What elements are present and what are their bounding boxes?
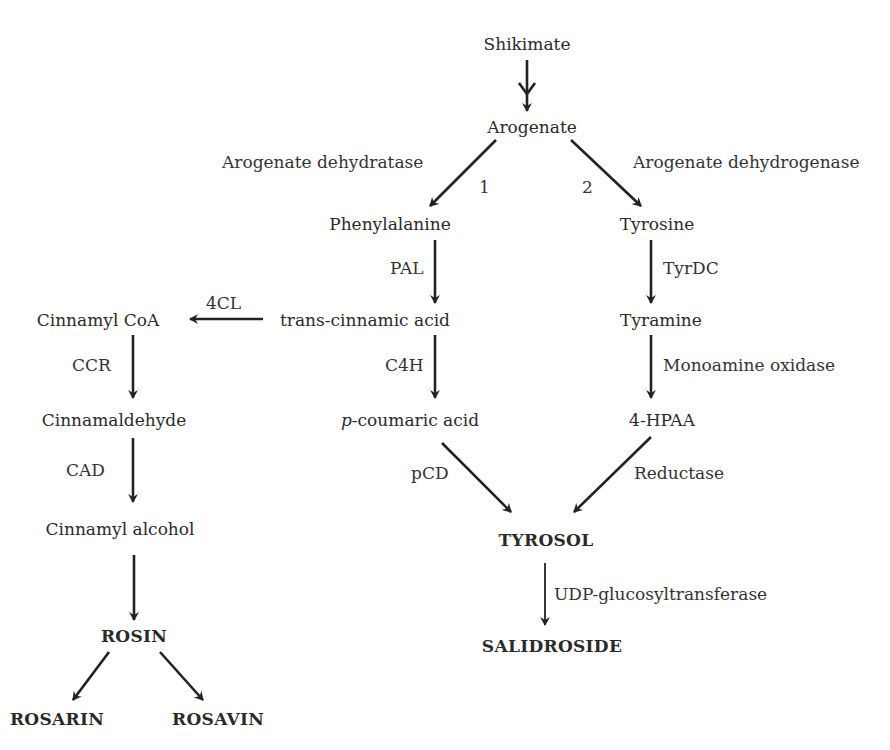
node-trans-cinnamic-acid: trans-cinnamic acid (280, 310, 450, 330)
node-tyrosine: Tyrosine (620, 214, 694, 234)
arrow-rosarin (73, 652, 109, 700)
label-arogenate-dehydrogenase: Arogenate dehydrogenase (633, 152, 860, 172)
arrow-pcd (442, 443, 511, 512)
node-cinnamyl-coa: Cinnamyl CoA (37, 310, 160, 330)
label-ccr: CCR (72, 355, 111, 375)
label-route-2: 2 (582, 177, 593, 197)
label-pcd: pCD (411, 463, 449, 483)
node-shikimate: Shikimate (484, 34, 571, 54)
node-p-coumaric-acid: p-coumaric acid (341, 410, 479, 430)
node-tyrosol: TYROSOL (499, 530, 594, 550)
node-phenylalanine: Phenylalanine (329, 214, 451, 234)
label-reductase: Reductase (634, 463, 724, 483)
label-arogenate-dehydratase: Arogenate dehydratase (222, 152, 423, 172)
label-tyrdc: TyrDC (663, 258, 719, 278)
node-arogenate: Arogenate (487, 117, 577, 137)
label-route-1: 1 (479, 177, 490, 197)
node-cinnamyl-alcohol: Cinnamyl alcohol (46, 519, 195, 539)
node-salidroside: SALIDROSIDE (482, 636, 622, 656)
arrow-rosavin (160, 652, 203, 700)
node-tyramine: Tyramine (620, 310, 702, 330)
label-4cl: 4CL (206, 293, 241, 313)
label-c4h: C4H (385, 355, 424, 375)
node-rosin: ROSIN (101, 626, 167, 646)
coumaric-rest: -coumaric acid (352, 410, 479, 430)
p-prefix: p (341, 410, 352, 430)
node-4-hpaa: 4-HPAA (629, 410, 695, 430)
label-monoamine-oxidase: Monoamine oxidase (663, 355, 835, 375)
node-cinnamaldehyde: Cinnamaldehyde (42, 410, 187, 430)
node-rosarin: ROSARIN (10, 709, 104, 729)
label-cad: CAD (66, 460, 105, 480)
node-rosavin: ROSAVIN (172, 709, 264, 729)
label-udp-glucosyltransferase: UDP-glucosyltransferase (554, 584, 767, 604)
label-pal: PAL (390, 258, 423, 278)
